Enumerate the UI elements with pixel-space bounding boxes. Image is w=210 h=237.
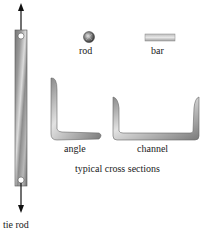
tie-rod [15, 3, 27, 213]
bar-section-icon [145, 34, 175, 41]
pin-hole-bottom [18, 177, 24, 183]
channel-label: channel [137, 143, 168, 155]
cross-sections-caption: typical cross sections [75, 163, 160, 175]
tie-rod-label: tie rod [3, 219, 29, 231]
pin-hole-top [18, 33, 24, 39]
angle-label: angle [64, 143, 86, 155]
arrow-down-head-icon [18, 205, 24, 213]
rod-label: rod [79, 45, 92, 57]
angle-section-icon [51, 78, 101, 140]
bar-label: bar [151, 45, 164, 57]
tie-rod-bar [15, 30, 27, 186]
diagram-canvas [0, 0, 210, 237]
channel-section-icon [113, 97, 199, 140]
arrow-up-head-icon [18, 3, 24, 11]
